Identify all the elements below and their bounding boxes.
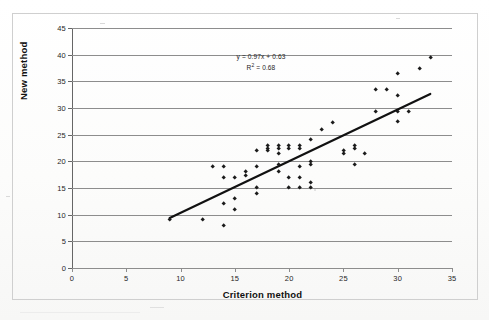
- y-axis-tick-label: 30: [40, 104, 66, 113]
- x-axis-tick-label: 15: [223, 274, 247, 283]
- x-axis-tick: [126, 268, 127, 272]
- x-axis-tick: [289, 268, 290, 272]
- y-axis-tick-label: 35: [40, 77, 66, 86]
- r-squared-value: = 0.68: [254, 64, 275, 71]
- r-squared-line: R2 = 0.68: [222, 61, 300, 72]
- y-axis-tick-label: 25: [40, 131, 66, 140]
- equation-line: y = 0.97x + 0.63: [222, 52, 300, 61]
- x-axis-tick: [72, 268, 73, 272]
- x-axis-tick: [235, 268, 236, 272]
- x-axis-tick: [343, 268, 344, 272]
- regression-equation-annotation: y = 0.97x + 0.63 R2 = 0.68: [222, 52, 300, 72]
- x-axis-tick: [181, 268, 182, 272]
- scan-artifact: [6, 196, 10, 197]
- x-axis-tick-label: 25: [331, 274, 355, 283]
- y-axis-tick-label: 20: [40, 157, 66, 166]
- x-axis-tick: [452, 268, 453, 272]
- y-axis-tick-label: 15: [40, 184, 66, 193]
- scanned-chart-page: 051015202530354045 05101520253035 y = 0.…: [0, 0, 489, 320]
- y-axis-tick-label: 0: [40, 264, 66, 273]
- scan-artifact: [20, 312, 140, 313]
- x-axis-tick-label: 0: [60, 274, 84, 283]
- y-axis-tick-label: 40: [40, 51, 66, 60]
- x-axis-tick-label: 20: [277, 274, 301, 283]
- y-axis-title: New method: [18, 42, 29, 100]
- x-axis-title: Criterion method: [72, 289, 453, 300]
- x-axis-line: [72, 268, 453, 269]
- x-axis-tick-label: 5: [114, 274, 138, 283]
- scan-artifact: [150, 307, 164, 308]
- x-axis-tick-label: 30: [386, 274, 410, 283]
- x-axis-tick: [398, 268, 399, 272]
- y-axis-tick-label: 10: [40, 211, 66, 220]
- y-axis-tick-label: 45: [40, 24, 66, 33]
- y-axis-tick-label: 5: [40, 237, 66, 246]
- x-axis-tick-label: 35: [440, 274, 464, 283]
- x-axis-tick-label: 10: [169, 274, 193, 283]
